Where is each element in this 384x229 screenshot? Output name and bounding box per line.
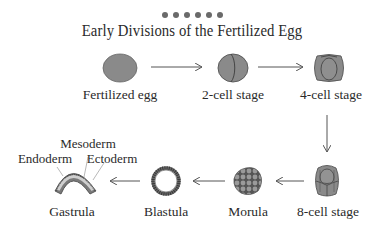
four-cell-icon bbox=[315, 55, 344, 82]
label-mesoderm: Mesoderm bbox=[60, 136, 116, 152]
label-2-cell: 2-cell stage bbox=[202, 87, 264, 103]
label-blastula: Blastula bbox=[144, 204, 188, 220]
endoderm-leader bbox=[57, 167, 63, 176]
label-endoderm: Endoderm bbox=[18, 151, 72, 167]
label-ectoderm: Ectoderm bbox=[87, 151, 138, 167]
label-8-cell: 8-cell stage bbox=[297, 204, 359, 220]
morula-icon bbox=[234, 168, 262, 195]
eight-cell-icon bbox=[316, 166, 339, 197]
label-4-cell: 4-cell stage bbox=[300, 87, 362, 103]
label-fertilized-egg: Fertilized egg bbox=[83, 87, 158, 103]
blastula-icon bbox=[153, 168, 179, 194]
label-gastrula: Gastrula bbox=[49, 204, 95, 220]
two-cell-icon bbox=[218, 54, 248, 82]
fertilized-egg-icon bbox=[103, 54, 137, 82]
diagram-artwork bbox=[0, 0, 384, 229]
label-morula: Morula bbox=[228, 204, 268, 220]
